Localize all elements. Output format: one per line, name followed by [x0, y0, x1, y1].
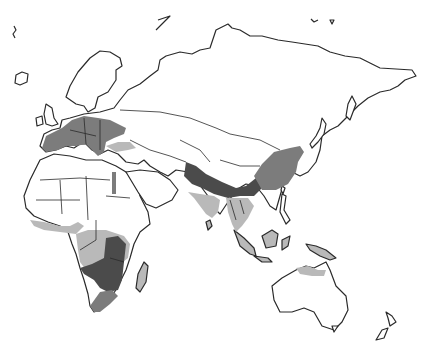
new-guinea: [306, 244, 336, 260]
sri-lanka: [206, 220, 212, 230]
distribution-map: [0, 0, 429, 360]
novaya-zemlya: [156, 16, 170, 30]
greenland-tip: [13, 26, 16, 38]
java: [254, 256, 272, 262]
new-zealand-north: [386, 312, 396, 326]
madagascar: [136, 262, 148, 292]
philippines: [280, 194, 290, 224]
sumatra: [234, 230, 256, 256]
arctic-island-1: [311, 19, 318, 22]
new-zealand-south: [376, 328, 388, 340]
great-britain: [44, 104, 58, 126]
scandinavia: [66, 51, 122, 112]
sulawesi: [282, 236, 290, 250]
tasmania: [332, 326, 338, 332]
borneo: [262, 230, 278, 248]
arctic-island-2: [330, 20, 334, 24]
ireland: [36, 116, 43, 126]
iceland: [15, 72, 28, 85]
zone-southeast-asia: [226, 198, 254, 232]
zone-nile: [112, 172, 116, 194]
